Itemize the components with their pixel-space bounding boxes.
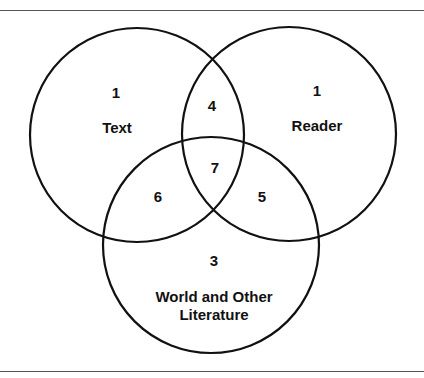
venn-diagram: 1 Text 1 Reader 4 7 6 5 3 World and Othe… — [0, 0, 424, 378]
reader-circle — [182, 27, 396, 241]
all-three-value: 7 — [211, 159, 219, 176]
world-only-value: 3 — [210, 252, 218, 269]
text-world-value: 6 — [154, 188, 162, 205]
world-set-label-line1: World and Other — [155, 288, 272, 305]
reader-only-value: 1 — [313, 82, 321, 99]
text-reader-value: 4 — [208, 97, 217, 114]
world-set-label-line2: Literature — [179, 306, 248, 323]
text-only-value: 1 — [112, 84, 120, 101]
reader-set-label: Reader — [292, 117, 343, 134]
reader-world-value: 5 — [258, 188, 266, 205]
text-set-label: Text — [102, 119, 132, 136]
